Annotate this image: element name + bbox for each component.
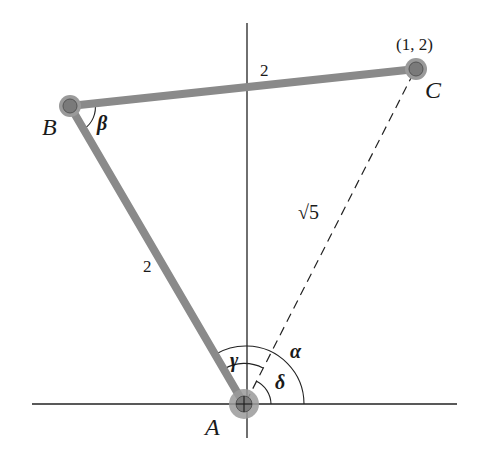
angle-alpha-label: α xyxy=(290,340,302,362)
point-c-coordinates: (1, 2) xyxy=(396,35,433,54)
joint-b xyxy=(59,95,81,117)
joint-c xyxy=(405,58,427,80)
angle-gamma-label: γ xyxy=(230,349,239,372)
segment-ac-dashed xyxy=(246,72,414,402)
rod-bc xyxy=(70,69,416,106)
angle-beta-label: β xyxy=(96,112,108,135)
point-label-c: C xyxy=(425,77,442,103)
angle-delta-label: δ xyxy=(275,371,285,393)
joint-a xyxy=(229,389,259,419)
linkage-diagram: A B C (1, 2) 2 2 √5 β γ α δ xyxy=(0,0,485,460)
segment-bc-length-label: 2 xyxy=(260,61,269,80)
point-label-a: A xyxy=(203,414,220,440)
rod-ab xyxy=(70,106,244,404)
segment-ab-length-label: 2 xyxy=(143,257,152,276)
point-label-b: B xyxy=(42,114,57,140)
segment-ac-length-label: √5 xyxy=(298,201,319,223)
diagram-canvas: A B C (1, 2) 2 2 √5 β γ α δ xyxy=(0,0,485,460)
